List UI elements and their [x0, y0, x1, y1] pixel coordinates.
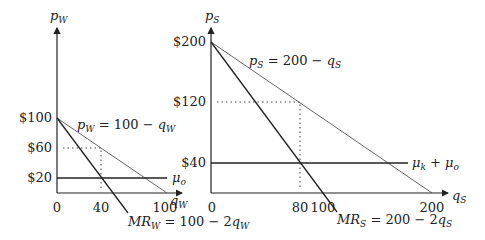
mr-label: MRW = 100 − 2qW — [127, 214, 250, 231]
y-tick: $120 — [173, 94, 206, 109]
x-tick: 0 — [208, 200, 216, 215]
y-tick: $60 — [27, 140, 52, 155]
x-tick: 100 — [311, 200, 336, 215]
cost-label: μo — [172, 170, 186, 187]
y-tick: $40 — [181, 155, 206, 170]
x-tick: 0 — [53, 200, 61, 215]
y-tick: $20 — [27, 170, 52, 185]
demand-label: pW = 100 − qW — [77, 117, 176, 134]
left-chart: pW qW $100 $60 $20 0 40 100 pW = 100 − q… — [19, 8, 250, 231]
diagram: pW qW $100 $60 $20 0 40 100 pW = 100 − q… — [0, 0, 485, 240]
y-axis-label: pS — [205, 8, 220, 25]
x-tick: 80 — [292, 200, 309, 215]
right-chart: pS qS $200 $120 $40 0 80 100 200 pS = 20… — [173, 8, 467, 229]
monopoly-diagram: pW qW $100 $60 $20 0 40 100 pW = 100 − q… — [0, 0, 485, 240]
cost-label: μk + μo — [412, 155, 460, 172]
mr-label: MRS = 200 − 2qS — [336, 212, 452, 229]
x-tick: 100 — [153, 200, 178, 215]
demand-label: pS = 200 − qS — [249, 53, 341, 70]
y-tick: $100 — [19, 110, 52, 125]
y-tick: $200 — [173, 34, 206, 49]
y-axis-label: pW — [50, 8, 68, 25]
x-axis-label: qS — [452, 188, 467, 205]
x-tick: 40 — [93, 200, 110, 215]
